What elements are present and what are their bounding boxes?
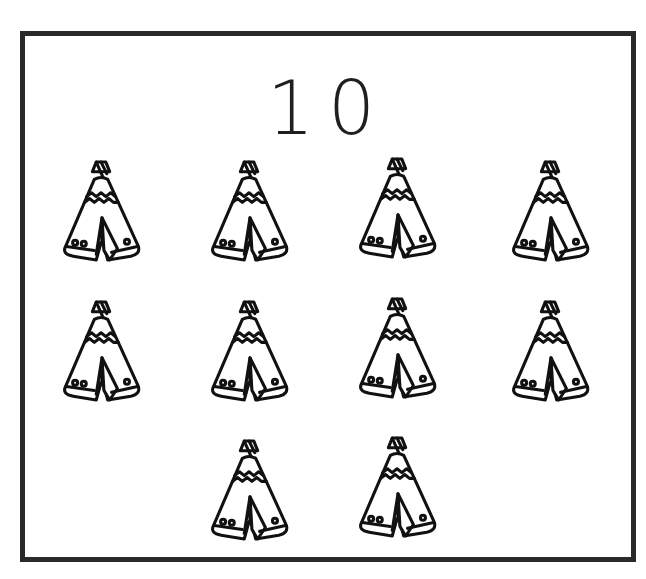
teepee-icon	[503, 153, 599, 271]
teepee-icon	[350, 429, 446, 547]
teepee-icon	[54, 293, 150, 411]
teepee-icon	[202, 432, 298, 550]
teepee-icon	[54, 153, 150, 271]
teepee-icon	[350, 290, 446, 408]
teepee-icon	[503, 293, 599, 411]
teepee-icon	[202, 293, 298, 411]
number-label: 10	[25, 71, 631, 145]
teepee-icon	[202, 153, 298, 271]
teepee-icon	[350, 150, 446, 268]
